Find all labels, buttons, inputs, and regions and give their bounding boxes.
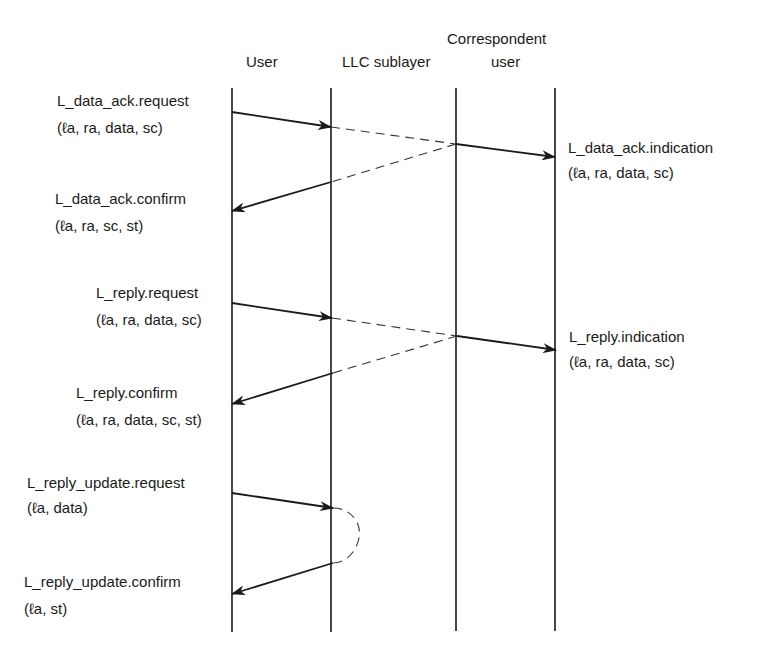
arrow-reply-update-confirm [232, 563, 333, 594]
header-correspondent-user: user [491, 53, 520, 70]
label-data-ack-confirm: L_data_ack.confirm [55, 190, 186, 207]
label-reply-update-request: L_reply_update.request [27, 474, 185, 491]
dashed-local-update-loop [333, 508, 359, 563]
arrow-reply-request [232, 303, 332, 318]
dashed-transfer-data-ack [331, 127, 456, 144]
arrow-data-ack-confirm [232, 182, 331, 211]
arrow-reply-indication [457, 336, 556, 350]
header-llc-sublayer: LLC sublayer [342, 53, 430, 70]
arrow-data-ack-request [232, 112, 331, 127]
arrow-data-ack-indication [456, 144, 555, 157]
label-data-ack-request: L_data_ack.request [57, 92, 190, 109]
params-data-ack-confirm: (ℓa, ra, sc, st) [55, 217, 143, 234]
arrow-reply-update-request [232, 493, 333, 508]
header-user: User [246, 53, 278, 70]
params-reply-update-request: (ℓa, data) [27, 499, 88, 516]
label-data-ack-indication: L_data_ack.indication [568, 139, 713, 156]
dashed-transfer-reply [332, 318, 457, 336]
header-correspondent: Correspondent [447, 30, 547, 47]
arrow-reply-confirm [232, 373, 333, 404]
params-reply-update-confirm: (ℓa, st) [24, 600, 67, 617]
dashed-reply-return [333, 336, 457, 373]
params-reply-indication: (ℓa, ra, data, sc) [569, 353, 675, 370]
label-reply-confirm: L_reply.confirm [76, 384, 177, 401]
dashed-ack-return [331, 144, 456, 182]
params-reply-request: (ℓa, ra, data, sc) [96, 311, 202, 328]
params-reply-confirm: (ℓa, ra, data, sc, st) [76, 411, 202, 428]
params-data-ack-indication: (ℓa, ra, data, sc) [568, 164, 674, 181]
label-reply-request: L_reply.request [96, 284, 199, 301]
label-reply-indication: L_reply.indication [569, 328, 685, 345]
label-reply-update-confirm: L_reply_update.confirm [24, 573, 181, 590]
llc-service-primitive-sequence-diagram: User LLC sublayer Correspondent user L_d… [0, 0, 783, 662]
params-data-ack-request: (ℓa, ra, data, sc) [57, 119, 163, 136]
